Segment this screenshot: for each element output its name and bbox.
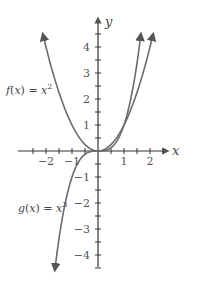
axes — [18, 20, 166, 268]
x-tick-label: 2 — [147, 155, 154, 168]
y-tick-label: 2 — [83, 93, 90, 106]
x-tick-label: −2 — [38, 155, 54, 168]
y-tick-label: −4 — [74, 249, 90, 262]
x-tick-label: 1 — [121, 155, 128, 168]
y-tick-label: −1 — [74, 171, 90, 184]
labels: −2−112−4−3−2−11234xyf(x) = x2g(x) = x3 — [5, 14, 180, 262]
y-tick-label: 4 — [83, 41, 90, 54]
x-tick-label: −1 — [64, 155, 80, 168]
x-axis-label: x — [172, 143, 180, 158]
y-tick-label: −2 — [74, 197, 90, 210]
function-label: g(x) = x3 — [18, 200, 67, 215]
y-tick-label: −3 — [74, 223, 90, 236]
y-tick-label: 1 — [83, 119, 90, 132]
function-label: f(x) = x2 — [5, 82, 52, 97]
y-axis-label: y — [104, 14, 113, 29]
function-graph: −2−112−4−3−2−11234xyf(x) = x2g(x) = x3 — [0, 0, 198, 287]
y-tick-label: 3 — [83, 67, 90, 80]
